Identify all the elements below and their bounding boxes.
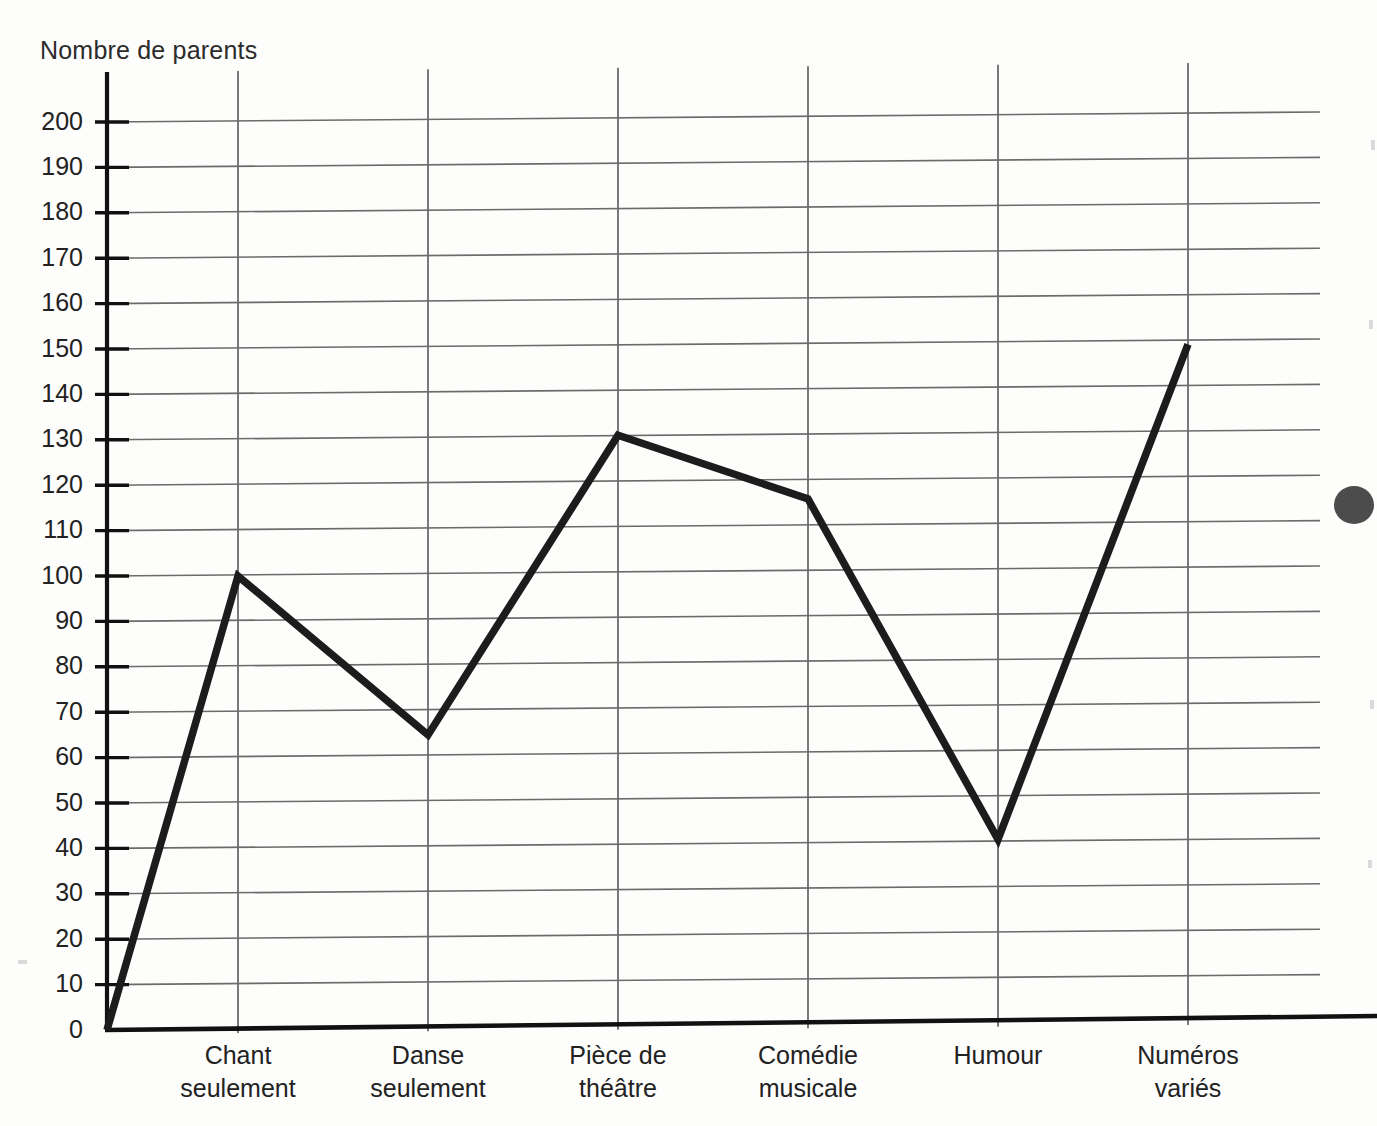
x-category-label: Humour [954, 1041, 1043, 1069]
gridline-horizontal [107, 339, 1320, 349]
x-category-label: Comédie [758, 1041, 858, 1069]
horizontal-gridlines [107, 112, 1320, 985]
x-category-label: musicale [759, 1074, 858, 1102]
y-axis-tick-marks [95, 122, 129, 985]
scan-artifact-blob [1334, 486, 1374, 524]
data-series-line [107, 344, 1188, 1030]
gridline-horizontal [107, 248, 1320, 258]
x-axis-line [105, 1016, 1377, 1030]
y-tick-label: 120 [41, 470, 83, 498]
y-tick-label: 70 [55, 697, 83, 725]
y-axis-tick-labels: 2001901801701601501401301201101009080706… [41, 107, 83, 1043]
gridline-horizontal [107, 702, 1320, 712]
gridline-horizontal [107, 793, 1320, 803]
x-category-label: Danse [392, 1041, 464, 1069]
y-tick-label: 60 [55, 742, 83, 770]
scan-artifact-speck [18, 960, 27, 964]
y-tick-label: 130 [41, 424, 83, 452]
chart-plot-area: 2001901801701601501401301201101009080706… [0, 0, 1377, 1126]
y-tick-label: 10 [55, 969, 83, 997]
series-polyline [107, 344, 1188, 1030]
x-category-label: seulement [180, 1074, 295, 1102]
x-category-label: théâtre [579, 1074, 657, 1102]
scan-artifact-speck [1370, 700, 1374, 709]
y-tick-label: 200 [41, 107, 83, 135]
gridline-horizontal [107, 566, 1320, 576]
scan-artifact-speck [1371, 140, 1375, 150]
scan-artifact-speck [1369, 320, 1373, 329]
axis-lines [105, 72, 1377, 1030]
gridline-horizontal [107, 838, 1320, 848]
line-chart-figure: Nombre de parents 2001901801701601501401… [0, 0, 1377, 1126]
gridline-horizontal [107, 884, 1320, 894]
gridline-horizontal [107, 430, 1320, 440]
y-tick-label: 180 [41, 197, 83, 225]
y-tick-label: 160 [41, 288, 83, 316]
x-category-label: variés [1155, 1074, 1222, 1102]
gridline-horizontal [107, 748, 1320, 758]
y-tick-label: 150 [41, 334, 83, 362]
y-tick-label: 140 [41, 379, 83, 407]
y-tick-label: 80 [55, 651, 83, 679]
y-tick-label: 0 [69, 1015, 83, 1043]
y-tick-label: 190 [41, 152, 83, 180]
gridline-horizontal [107, 975, 1320, 985]
x-category-label: Numéros [1137, 1041, 1238, 1069]
gridline-horizontal [107, 657, 1320, 667]
x-category-label: Chant [205, 1041, 272, 1069]
y-tick-label: 100 [41, 561, 83, 589]
gridline-horizontal [107, 929, 1320, 939]
y-tick-label: 40 [55, 833, 83, 861]
x-category-label: seulement [370, 1074, 485, 1102]
gridline-horizontal [107, 521, 1320, 531]
y-tick-label: 50 [55, 788, 83, 816]
gridline-horizontal [107, 157, 1320, 167]
y-tick-label: 110 [43, 515, 83, 543]
y-tick-label: 20 [55, 924, 83, 952]
x-category-label: Pièce de [569, 1041, 666, 1069]
x-axis-category-labels: ChantseulementDanseseulementPièce dethéâ… [180, 1041, 1238, 1102]
gridline-horizontal [107, 112, 1320, 122]
y-tick-label: 170 [41, 243, 83, 271]
y-tick-label: 30 [55, 878, 83, 906]
gridline-horizontal [107, 384, 1320, 394]
y-tick-label: 90 [55, 606, 83, 634]
gridline-horizontal [107, 203, 1320, 213]
scan-artifact-speck [1368, 860, 1372, 868]
gridline-horizontal [107, 294, 1320, 304]
